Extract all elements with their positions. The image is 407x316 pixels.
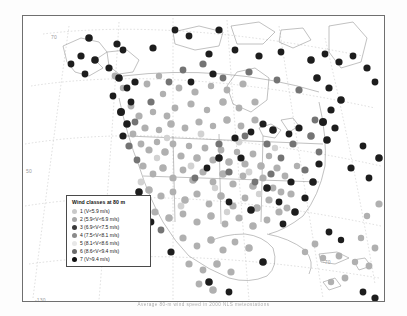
legend-item-class-1: 1 (V<5.9 m/s) — [71, 207, 147, 215]
legend-label-class-3: 3 (6.9<V<7.5 m/s) — [80, 223, 119, 231]
legend-item-class-6: 6 (8.6<V<9.4 m/s) — [71, 247, 147, 255]
map-frame: Wind classes at 80 m 1 (V<5.9 m/s) 2 (5.… — [22, 15, 385, 302]
graticule-label-lat-70: 70 — [51, 34, 57, 40]
legend-item-class-4: 4 (7.5<V<8.1 m/s) — [71, 231, 147, 239]
graticule-label-lon-70: -70 — [323, 259, 331, 265]
legend-label-class-6: 6 (8.6<V<9.4 m/s) — [80, 247, 119, 255]
legend-swatch-class-4 — [72, 233, 77, 238]
legend-title: Wind classes at 80 m — [72, 199, 147, 205]
legend-item-class-2: 2 (5.9<V<6.9 m/s) — [71, 215, 147, 223]
legend-label-class-5: 5 (8.1<V<8.6 m/s) — [80, 239, 119, 247]
legend-swatch-class-2 — [72, 217, 77, 222]
legend-item-class-5: 5 (8.1<V<8.6 m/s) — [71, 239, 147, 247]
legend-swatch-class-3 — [72, 225, 77, 230]
legend-item-class-7: 7 (V>9.4 m/s) — [71, 255, 147, 263]
wind-class-map-figure: Wind classes at 80 m 1 (V<5.9 m/s) 2 (5.… — [0, 0, 407, 316]
legend-label-class-1: 1 (V<5.9 m/s) — [80, 207, 110, 215]
legend-swatch-class-7 — [72, 257, 77, 262]
legend-label-class-2: 2 (5.9<V<6.9 m/s) — [80, 215, 119, 223]
graticule-label-lat-50: 50 — [26, 168, 32, 174]
legend-label-class-4: 4 (7.5<V<8.1 m/s) — [80, 231, 119, 239]
legend-swatch-class-6 — [72, 249, 77, 254]
legend-swatch-class-1 — [72, 209, 77, 214]
figure-caption: Average 80-m wind speed in 2000 NLS mete… — [0, 302, 407, 307]
map-legend: Wind classes at 80 m 1 (V<5.9 m/s) 2 (5.… — [66, 195, 151, 267]
legend-item-class-3: 3 (6.9<V<7.5 m/s) — [71, 223, 147, 231]
legend-label-class-7: 7 (V>9.4 m/s) — [80, 255, 110, 263]
legend-swatch-class-5 — [72, 241, 77, 246]
